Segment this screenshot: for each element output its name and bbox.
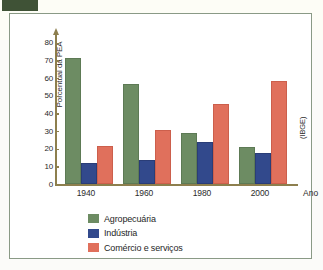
chart-legend: AgropecuáriaIndústriaComércio e serviços xyxy=(88,212,183,256)
bar xyxy=(239,147,255,184)
x-tick-label: 1960 xyxy=(124,188,164,198)
y-tick: 80 xyxy=(15,43,59,44)
y-tick-label: 30 xyxy=(45,128,56,136)
chart-panel: Porcentual da PEA 01020304050607080 1940… xyxy=(9,13,312,259)
legend-label: Indústria xyxy=(104,228,137,238)
legend-swatch xyxy=(88,229,99,238)
legend-item: Indústria xyxy=(88,227,183,240)
y-tick: 10 xyxy=(15,166,59,167)
legend-swatch xyxy=(88,243,99,252)
x-axis-title: Ano xyxy=(303,188,318,198)
y-tick-label: 60 xyxy=(45,75,56,83)
x-tick-label: 2000 xyxy=(240,188,280,198)
bar xyxy=(155,130,171,184)
plot-area: Porcentual da PEA 01020304050607080 1940… xyxy=(55,34,295,184)
bar xyxy=(213,104,229,184)
y-tick: 40 xyxy=(15,113,59,114)
y-tick: 20 xyxy=(15,149,59,150)
y-tick: 60 xyxy=(15,78,59,79)
legend-label: Agropecuária xyxy=(104,214,156,224)
bar-groups xyxy=(57,34,295,184)
x-tick-label: 1940 xyxy=(66,188,106,198)
y-tick-label: 50 xyxy=(45,92,56,100)
bar-group xyxy=(65,34,113,184)
y-tick: 30 xyxy=(15,131,59,132)
bar-group xyxy=(181,34,229,184)
bar xyxy=(271,81,287,184)
legend-swatch xyxy=(88,214,99,223)
source-note: (IBGE) xyxy=(298,117,307,139)
legend-item: Agropecuária xyxy=(88,212,183,225)
bar xyxy=(255,153,271,184)
y-tick: 70 xyxy=(15,60,59,61)
bar-group xyxy=(239,34,287,184)
bar xyxy=(97,146,113,184)
bar xyxy=(123,84,139,184)
y-tick: 50 xyxy=(15,96,59,97)
bar xyxy=(181,133,197,184)
bar xyxy=(197,142,213,184)
legend-item: Comércio e serviços xyxy=(88,241,183,254)
bar xyxy=(65,58,81,184)
bar-group xyxy=(123,34,171,184)
bar xyxy=(139,160,155,184)
legend-label: Comércio e serviços xyxy=(104,243,183,253)
y-tick-label: 40 xyxy=(45,110,56,118)
y-tick-mark xyxy=(56,184,60,185)
y-tick-label: 10 xyxy=(45,163,56,171)
x-axis-line xyxy=(55,184,298,186)
y-tick-label: 80 xyxy=(45,39,56,47)
y-tick-label: 20 xyxy=(45,145,56,153)
bar xyxy=(81,163,97,184)
y-tick-label: 0 xyxy=(49,181,56,189)
y-tick: 0 xyxy=(15,184,59,185)
x-tick-label: 1980 xyxy=(182,188,222,198)
y-tick-label: 70 xyxy=(45,57,56,65)
green-tab-marker xyxy=(2,0,38,11)
